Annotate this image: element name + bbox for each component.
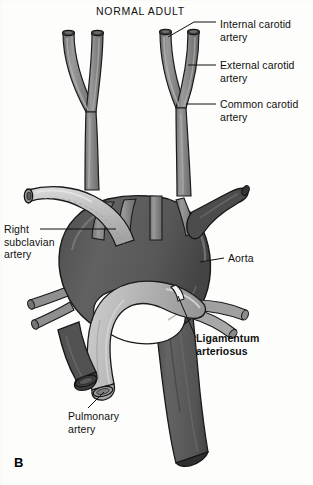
label-right-subclavian-artery: Right subclavian artery <box>4 223 55 261</box>
label-aorta: Aorta <box>228 252 254 265</box>
arch-branch-3 <box>150 196 162 240</box>
left-subclavian-branch <box>187 188 248 238</box>
left-vessel-stubs-group <box>26 288 74 330</box>
label-pulmonary-artery: Pulmonary artery <box>68 410 119 435</box>
panel-letter: B <box>14 455 24 470</box>
label-common-carotid-artery: Common carotid artery <box>220 98 298 123</box>
label-internal-carotid-artery: Internal carotid artery <box>220 18 291 43</box>
left-carotid-bifurcation-group <box>63 30 104 190</box>
right-carotid-bifurcation-group <box>160 29 200 196</box>
label-ligamentum-arteriosus: Ligamentum arteriosus <box>196 332 259 357</box>
common-carotid-trunk-left <box>85 112 99 190</box>
figure-title: NORMAL ADULT <box>96 5 185 17</box>
label-external-carotid-artery: External carotid artery <box>220 59 295 84</box>
right-subclavian-lumen <box>27 192 31 200</box>
